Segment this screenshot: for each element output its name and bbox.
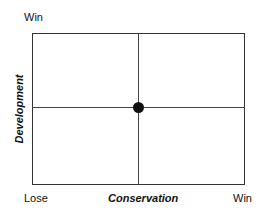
y-axis-win-label: Win	[24, 11, 43, 23]
x-axis-title: Conservation	[108, 192, 178, 204]
y-axis-title: Development	[13, 74, 25, 143]
x-axis-lose-label: Lose	[24, 192, 48, 204]
center-point	[133, 102, 144, 113]
x-axis-win-label: Win	[233, 192, 252, 204]
